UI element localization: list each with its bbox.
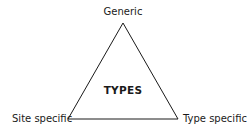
types-triangle bbox=[68, 23, 178, 119]
vertex-label-type-specific: Type specific bbox=[183, 113, 247, 125]
vertex-label-generic: Generic bbox=[104, 6, 143, 18]
vertex-label-site-specific: Site specific bbox=[12, 113, 72, 125]
center-label-types: TYPES bbox=[104, 84, 143, 96]
